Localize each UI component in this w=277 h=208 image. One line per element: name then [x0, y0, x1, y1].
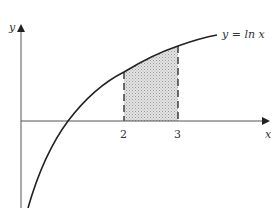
y-axis-arrow-icon — [17, 24, 25, 32]
tick-label-3: 3 — [174, 128, 181, 141]
x-axis-label: x — [265, 128, 272, 141]
curve-label: y = ln x — [221, 28, 266, 41]
tick-label-2: 2 — [120, 128, 127, 141]
y-axis-label: y — [8, 21, 16, 34]
x-axis-arrow-icon — [262, 117, 270, 125]
ln-graph: y x 2 3 y = ln x — [0, 0, 277, 208]
